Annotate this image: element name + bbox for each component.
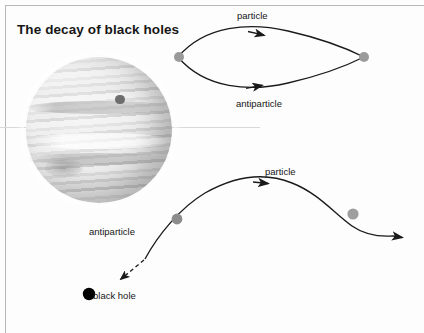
particle-direction-arrow (253, 182, 268, 184)
physics-diagrams (0, 0, 424, 333)
antiparticle-arc-bottom (178, 57, 364, 87)
loop-vertex-left (174, 52, 184, 62)
escape-diagram (83, 177, 402, 300)
figure-page: The decay of black holes (0, 0, 424, 333)
label-antiparticle-top: antiparticle (236, 98, 282, 109)
particle-arc-top (178, 27, 364, 57)
antiparticle-infall-dashed-arrow (121, 260, 144, 279)
particle-escape-arrow (393, 236, 402, 238)
label-black-hole: black hole (93, 290, 136, 301)
pair-creation-loop (174, 27, 369, 89)
label-particle-bottom: particle (265, 166, 296, 177)
particle-marker (347, 208, 358, 219)
label-antiparticle-bottom: antiparticle (89, 226, 135, 237)
pair-creation-vertex (172, 214, 183, 225)
loop-vertex-right (359, 52, 369, 62)
particle-arrow-top (248, 32, 264, 36)
label-particle-top: particle (237, 10, 268, 21)
